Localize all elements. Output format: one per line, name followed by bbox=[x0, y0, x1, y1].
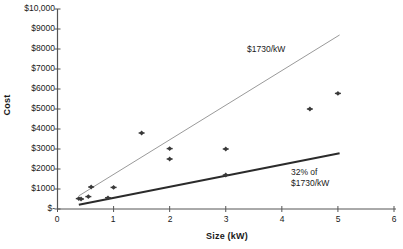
data-point-marker-bar bbox=[88, 186, 94, 187]
trend-line bbox=[79, 153, 340, 205]
data-point-marker-bar bbox=[105, 197, 111, 198]
data-point-marker-bar bbox=[223, 148, 229, 149]
scatter-chart: Cost $10,000 $9000 $8000 $7000 $6000 $50… bbox=[0, 0, 403, 249]
plot-area bbox=[0, 0, 403, 249]
trend-line bbox=[79, 35, 340, 196]
data-point-marker-bar bbox=[335, 93, 341, 94]
data-point-marker-bar bbox=[307, 108, 313, 109]
data-point-marker-bar bbox=[223, 174, 229, 175]
data-markers bbox=[76, 91, 341, 201]
data-point-marker-bar bbox=[78, 198, 84, 199]
axis-lines bbox=[58, 9, 397, 209]
data-point-marker-bar bbox=[167, 158, 173, 159]
data-point-marker-bar bbox=[167, 148, 173, 149]
data-point-marker-bar bbox=[139, 132, 145, 133]
trend-lines bbox=[79, 35, 340, 205]
data-point-marker-bar bbox=[111, 187, 117, 188]
data-point-marker-bar bbox=[85, 196, 91, 197]
